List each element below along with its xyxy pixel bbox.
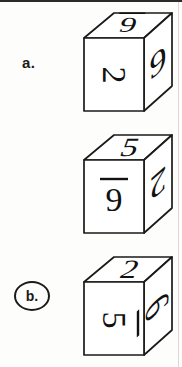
cube-b: 5 9 2 <box>58 126 178 244</box>
cube-c-front-digit-group: 5 <box>96 312 133 329</box>
top-divider-rule <box>0 0 182 2</box>
cube-c: 2 5 6 <box>58 248 178 366</box>
diagram-canvas: a. 6 2 9 <box>0 0 182 367</box>
cube-a-front-digit-group: 2 <box>96 67 133 84</box>
cube-a-drawing: 6 2 9 <box>58 4 178 122</box>
cube-c-drawing: 2 5 6 <box>58 248 178 366</box>
cube-a: 6 2 9 <box>58 4 178 122</box>
option-row-c[interactable]: c. 2 5 6 <box>0 248 182 365</box>
option-row-b[interactable]: b. 5 9 2 <box>0 126 182 246</box>
cube-b-front-digit: 9 <box>106 181 123 218</box>
option-label-a: a. <box>22 54 35 71</box>
option-row-a[interactable]: a. 6 2 9 <box>0 4 182 122</box>
cube-b-drawing: 5 9 2 <box>58 126 178 244</box>
cube-c-front-digit: 5 <box>96 312 133 329</box>
cube-a-front-digit: 2 <box>96 67 133 84</box>
